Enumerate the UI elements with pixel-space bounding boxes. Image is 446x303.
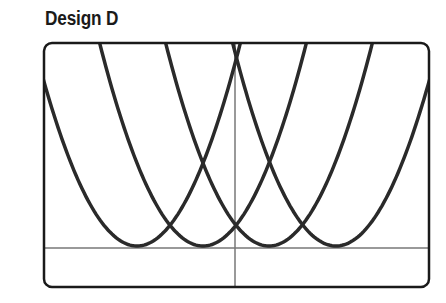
parabola-diagram [0,0,446,303]
parabola-curves [30,0,444,246]
graph-frame [44,43,429,287]
